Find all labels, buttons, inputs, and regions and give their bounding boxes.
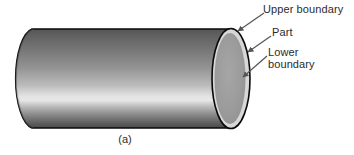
callout-label-part: Part — [272, 26, 293, 38]
arrow-upper-boundary — [238, 13, 264, 31]
cylinder-figure — [0, 0, 354, 155]
callout-label-upper-boundary: Upper boundary — [263, 3, 343, 15]
figure-caption: (a) — [0, 133, 250, 145]
figure-container: Upper boundary Part Lower boundary (a) — [0, 0, 354, 155]
callout-label-lower-boundary-line1: Lower — [268, 46, 298, 58]
part-end-face — [215, 33, 246, 124]
cylinder-body-group — [16, 29, 250, 129]
callout-label-lower-boundary-line2: boundary — [268, 58, 315, 70]
callout-label-lower-boundary: Lower boundary — [268, 46, 352, 70]
